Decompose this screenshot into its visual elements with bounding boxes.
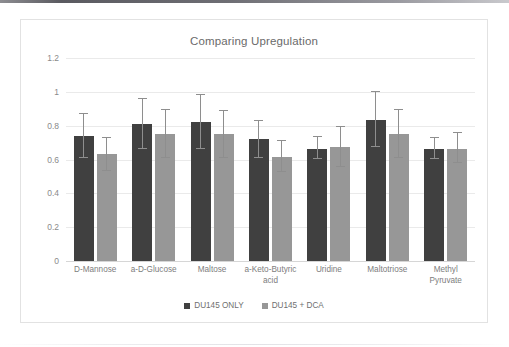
bar[interactable] — [447, 149, 467, 261]
error-bar-cap — [277, 171, 286, 172]
x-tick-label: Methyl Pyruvate — [417, 264, 475, 286]
legend-item[interactable]: DU145 ONLY — [184, 301, 243, 310]
bar-slot — [214, 58, 234, 261]
bar-group — [66, 58, 124, 261]
y-tick-label: 0.8 — [47, 121, 59, 131]
error-bar-cap — [336, 166, 345, 167]
legend-label: DU145 ONLY — [194, 301, 243, 310]
y-axis-tick-labels: 00.20.40.60.811.2 — [33, 58, 63, 261]
bar-slot — [74, 58, 94, 261]
error-bar — [165, 110, 166, 157]
bar-groups — [66, 58, 475, 261]
error-bar-cap — [336, 126, 345, 127]
error-bar — [83, 114, 84, 158]
error-bar-cap — [254, 157, 263, 158]
error-bar-cap — [277, 140, 286, 141]
bar-group — [124, 58, 182, 261]
gridline — [66, 261, 475, 262]
bar-group — [300, 58, 358, 261]
error-bar-cap — [138, 98, 147, 99]
x-tick-label: Uridine — [300, 264, 358, 286]
bar-group — [358, 58, 416, 261]
y-tick-label: 1 — [54, 87, 59, 97]
bar-slot — [272, 58, 292, 261]
y-tick-label: 0.6 — [47, 155, 59, 165]
error-bar — [434, 138, 435, 159]
bar[interactable] — [272, 157, 292, 261]
x-tick-label: D-Mannose — [66, 264, 124, 286]
bar-slot — [447, 58, 467, 261]
plot-canvas — [66, 58, 475, 261]
x-axis-category-labels: D-Mannosea-D-GlucoseMaltosea-Keto-Butyri… — [66, 264, 475, 286]
error-bar-cap — [219, 110, 228, 111]
scan-artifact-bottom — [0, 344, 509, 345]
error-bar — [106, 138, 107, 170]
error-bar — [142, 99, 143, 150]
error-bar — [340, 127, 341, 168]
y-tick-label: 0.4 — [47, 188, 59, 198]
legend-item[interactable]: DU145 + DCA — [262, 301, 324, 310]
bar-slot — [424, 58, 444, 261]
scan-artifact-top — [0, 0, 509, 3]
error-bar-cap — [161, 157, 170, 158]
legend-swatch-icon — [184, 303, 190, 309]
error-bar-cap — [219, 157, 228, 158]
error-bar — [258, 121, 259, 158]
error-bar-cap — [313, 136, 322, 137]
error-bar-cap — [196, 94, 205, 95]
error-bar — [200, 95, 201, 149]
error-bar-cap — [371, 146, 380, 147]
error-bar-cap — [79, 157, 88, 158]
legend-label: DU145 + DCA — [272, 301, 324, 310]
error-bar-cap — [138, 148, 147, 149]
error-bar-cap — [161, 109, 170, 110]
bar-group — [417, 58, 475, 261]
error-bar-cap — [254, 120, 263, 121]
error-bar — [457, 133, 458, 163]
error-bar-cap — [196, 148, 205, 149]
y-tick-label: 0 — [54, 256, 59, 266]
error-bar-cap — [394, 109, 403, 110]
chart-legend: DU145 ONLYDU145 + DCA — [21, 301, 487, 310]
bar[interactable] — [307, 149, 327, 261]
bar-group — [183, 58, 241, 261]
plot-area: 00.20.40.60.811.2 D-Mannosea-D-GlucoseMa… — [33, 58, 477, 286]
bar-slot — [330, 58, 350, 261]
bar-group — [241, 58, 299, 261]
bar-slot — [366, 58, 386, 261]
error-bar-cap — [313, 158, 322, 159]
bar[interactable] — [424, 149, 444, 261]
bar-slot — [132, 58, 152, 261]
bar-slot — [389, 58, 409, 261]
bar-slot — [249, 58, 269, 261]
error-bar-cap — [102, 137, 111, 138]
x-tick-label: Maltose — [183, 264, 241, 286]
chart-container: Comparing Upregulation 00.20.40.60.811.2… — [20, 19, 488, 323]
error-bar — [281, 141, 282, 172]
error-bar-cap — [430, 158, 439, 159]
bar-slot — [155, 58, 175, 261]
error-bar-cap — [430, 137, 439, 138]
error-bar-cap — [394, 157, 403, 158]
error-bar-cap — [79, 113, 88, 114]
error-bar-cap — [102, 170, 111, 171]
bar-slot — [307, 58, 327, 261]
chart-title: Comparing Upregulation — [21, 35, 487, 47]
error-bar — [223, 111, 224, 158]
error-bar-cap — [453, 162, 462, 163]
error-bar — [398, 110, 399, 157]
x-tick-label: a-D-Glucose — [124, 264, 182, 286]
error-bar-cap — [371, 91, 380, 92]
error-bar-cap — [453, 132, 462, 133]
y-tick-label: 0.2 — [47, 222, 59, 232]
bar-slot — [191, 58, 211, 261]
legend-swatch-icon — [262, 303, 268, 309]
x-tick-label: a-Keto-Butyric acid — [241, 264, 299, 286]
x-tick-label: Maltotriose — [358, 264, 416, 286]
y-tick-label: 1.2 — [47, 53, 59, 63]
error-bar — [317, 137, 318, 159]
bar-slot — [97, 58, 117, 261]
error-bar — [375, 92, 376, 147]
